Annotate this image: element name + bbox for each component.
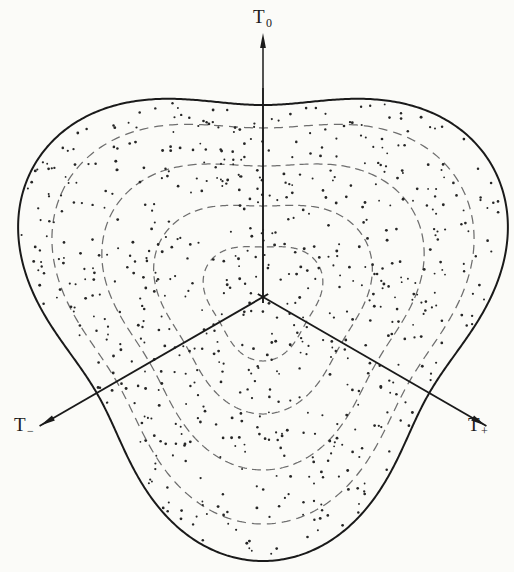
event-point xyxy=(380,386,383,389)
event-point xyxy=(220,381,223,384)
event-point xyxy=(402,198,405,201)
event-point xyxy=(144,416,146,418)
axis-label-t-plus-text: T xyxy=(468,414,480,435)
event-point xyxy=(281,433,283,435)
event-point xyxy=(168,220,170,222)
event-point xyxy=(59,288,62,291)
event-point xyxy=(395,393,398,396)
event-point xyxy=(182,345,184,347)
event-point xyxy=(365,136,367,138)
event-point xyxy=(154,462,156,464)
event-point xyxy=(200,190,203,193)
event-point xyxy=(92,267,94,269)
event-point xyxy=(214,166,216,168)
event-point xyxy=(161,316,163,318)
event-point xyxy=(344,339,347,342)
event-point xyxy=(185,373,187,375)
event-point xyxy=(300,337,302,339)
event-point xyxy=(146,260,149,263)
event-point xyxy=(420,302,422,304)
event-point xyxy=(387,285,390,288)
event-point xyxy=(460,223,462,225)
event-point xyxy=(288,183,290,185)
event-point xyxy=(278,505,281,508)
event-point xyxy=(216,177,218,179)
event-point xyxy=(479,196,481,198)
event-point xyxy=(365,219,367,221)
event-point xyxy=(72,148,74,150)
event-point xyxy=(283,455,285,457)
event-point xyxy=(97,361,100,364)
event-point xyxy=(328,440,331,443)
event-point xyxy=(268,264,270,266)
event-point xyxy=(139,181,142,184)
event-point xyxy=(443,176,445,178)
event-point xyxy=(464,222,467,225)
event-point xyxy=(294,251,297,254)
event-point xyxy=(250,372,252,374)
event-point xyxy=(336,255,338,257)
event-point xyxy=(79,324,82,327)
event-point xyxy=(288,273,290,275)
event-point xyxy=(346,469,349,472)
event-point xyxy=(164,295,166,297)
event-point xyxy=(255,506,258,509)
event-point xyxy=(286,303,288,305)
event-point xyxy=(327,460,330,463)
event-point xyxy=(240,175,243,178)
event-point xyxy=(394,296,396,298)
event-point xyxy=(432,209,434,211)
event-point xyxy=(230,231,232,233)
event-point xyxy=(41,265,43,267)
event-point xyxy=(307,412,309,414)
event-point xyxy=(169,278,171,280)
event-point xyxy=(106,338,108,340)
event-point xyxy=(362,221,365,224)
event-point xyxy=(218,361,220,363)
event-point xyxy=(144,371,146,373)
event-point xyxy=(189,243,192,246)
event-point xyxy=(180,426,182,428)
event-point xyxy=(181,433,183,435)
event-point xyxy=(153,434,156,437)
event-point xyxy=(289,399,291,401)
event-point xyxy=(378,425,380,427)
event-point xyxy=(308,476,310,478)
event-point xyxy=(268,516,270,518)
event-point xyxy=(114,280,116,282)
event-point xyxy=(73,310,75,312)
event-point xyxy=(388,450,390,452)
event-point xyxy=(91,238,94,241)
event-point xyxy=(463,270,465,272)
event-point xyxy=(199,477,201,479)
event-point xyxy=(361,206,364,209)
event-point xyxy=(62,147,65,150)
event-point xyxy=(207,122,210,125)
event-point xyxy=(387,334,390,337)
event-point xyxy=(205,121,207,123)
event-point xyxy=(298,367,300,369)
event-point xyxy=(244,283,246,285)
event-point xyxy=(364,266,366,268)
event-point xyxy=(486,239,489,242)
event-point xyxy=(435,213,437,215)
event-point xyxy=(364,483,366,485)
event-point xyxy=(94,162,97,165)
event-point xyxy=(369,362,372,365)
event-point xyxy=(188,350,191,353)
event-point xyxy=(391,321,393,323)
event-point xyxy=(325,196,328,199)
event-point xyxy=(226,179,229,182)
event-point xyxy=(389,204,391,206)
event-point xyxy=(369,105,371,107)
event-point xyxy=(137,324,140,327)
event-point xyxy=(145,257,147,259)
event-point xyxy=(266,353,269,356)
event-point xyxy=(333,316,335,318)
event-point xyxy=(385,469,388,472)
event-point xyxy=(184,443,187,446)
event-point xyxy=(217,126,219,128)
event-point xyxy=(117,247,119,249)
event-point xyxy=(141,305,143,307)
event-point xyxy=(162,507,165,510)
